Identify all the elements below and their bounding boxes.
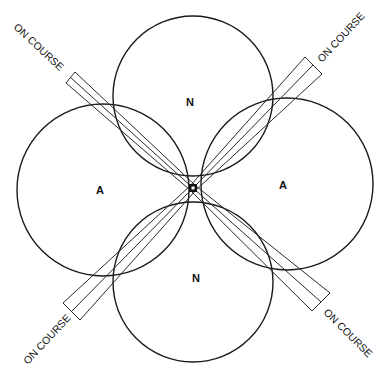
course-beam-northwest [66,72,196,190]
course-beam-southwest [63,186,196,320]
course-label-southwest: ON COURSE [21,312,73,367]
course-label-northwest: ON COURSE [12,21,67,73]
course-beam-northeast [190,57,322,190]
radio-range-diagram: N A N A ON COURSE ON COURSE ON COURSE ON… [0,0,387,379]
lobe-right-a [201,98,373,270]
lobe-label-bottom: N [192,272,200,284]
lobe-label-top: N [186,96,194,108]
course-label-southeast: ON COURSE [322,306,375,359]
course-label-northeast: ON COURSE [315,10,367,65]
lobe-label-right: A [279,179,287,191]
lobe-label-left: A [96,184,104,196]
